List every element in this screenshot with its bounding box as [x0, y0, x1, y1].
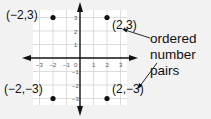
svg-text:−1: −1: [63, 62, 71, 68]
point-neg2-neg3: [50, 96, 55, 101]
arrow-down-icon: [77, 106, 83, 116]
point-2-neg3: [104, 96, 109, 101]
annotation-line: pairs: [150, 63, 197, 79]
arrow-right-icon: [129, 55, 138, 61]
point-label-neg2-neg3: (−2,−3): [4, 83, 43, 95]
arrow-up-icon: [77, 2, 83, 12]
arrow-left-icon: [22, 55, 31, 61]
point-label-neg2-3: (−2,3): [6, 9, 38, 21]
point-neg2-3: [50, 15, 55, 20]
point-2-3: [104, 15, 109, 20]
svg-text:−3: −3: [72, 96, 80, 102]
point-label-2-3: (2,3): [112, 19, 137, 31]
point-label-2-neg3: (2,−3): [112, 83, 144, 95]
svg-text:−2: −2: [50, 62, 58, 68]
svg-text:−2: −2: [72, 83, 80, 89]
svg-text:−1: −1: [72, 69, 80, 75]
svg-text:−3: −3: [36, 62, 44, 68]
annotation-line: number: [150, 47, 197, 63]
annotation-line: ordered: [150, 31, 197, 47]
annotation-ordered-number-pairs: ordered number pairs: [150, 31, 197, 79]
